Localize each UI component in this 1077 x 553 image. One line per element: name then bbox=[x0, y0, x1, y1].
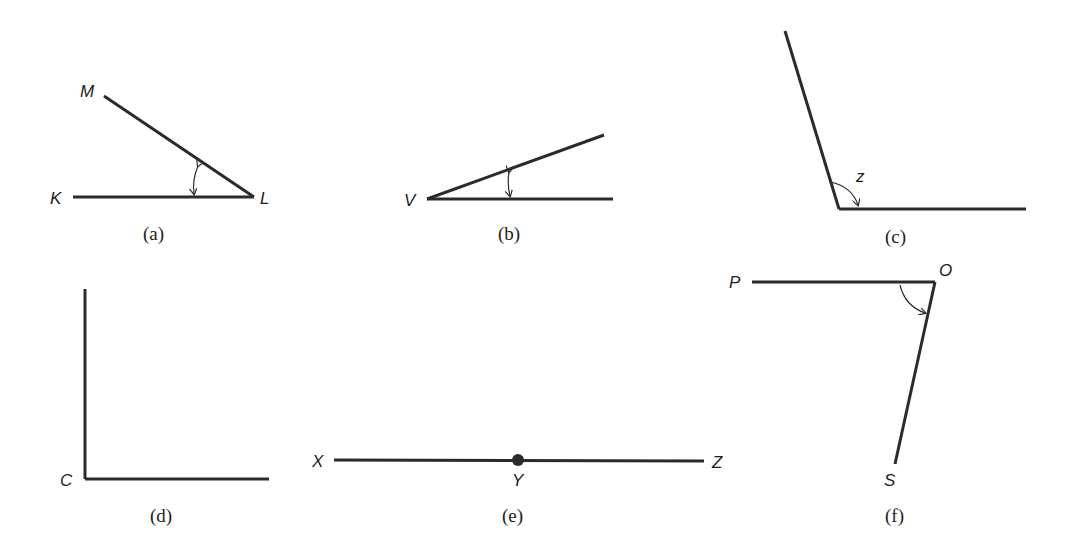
point-label-x: X bbox=[311, 452, 324, 471]
angle-diagrams: M K L (a) V (b) z (c) C (d) X Y Z (e) bbox=[0, 0, 1077, 553]
figure-e-straight-angle-xyz: X Y Z (e) bbox=[311, 452, 723, 527]
point-label-k: K bbox=[50, 189, 62, 208]
point-label-m: M bbox=[80, 82, 95, 101]
figure-d-right-angle-c: C (d) bbox=[60, 289, 269, 527]
point-label-p: P bbox=[729, 273, 741, 292]
point-label-v: V bbox=[404, 191, 417, 210]
ray-c-inclined bbox=[785, 31, 839, 209]
angle-arc-icon bbox=[508, 172, 510, 196]
figure-c-angle-z: z (c) bbox=[785, 31, 1026, 248]
caption-a: (a) bbox=[143, 223, 164, 245]
figure-a-angle-mlk: M K L (a) bbox=[50, 82, 269, 245]
ray-os bbox=[895, 282, 935, 464]
caption-d: (d) bbox=[150, 505, 172, 527]
caption-c: (c) bbox=[885, 226, 906, 248]
angle-label-z: z bbox=[855, 167, 865, 186]
caption-e: (e) bbox=[502, 505, 523, 527]
ray-lm bbox=[104, 96, 254, 197]
ray-v-inclined bbox=[427, 135, 604, 199]
figure-f-angle-pos: P O S (f) bbox=[729, 261, 952, 527]
point-label-o: O bbox=[939, 261, 952, 280]
point-label-l: L bbox=[260, 189, 269, 208]
point-label-s: S bbox=[884, 471, 896, 490]
caption-b: (b) bbox=[498, 223, 520, 245]
point-label-z: Z bbox=[711, 453, 723, 472]
point-label-c: C bbox=[60, 471, 73, 490]
figure-b-angle-v: V (b) bbox=[404, 135, 613, 245]
point-y-dot-icon bbox=[512, 454, 524, 466]
angle-arc-icon bbox=[194, 166, 199, 194]
caption-f: (f) bbox=[885, 505, 904, 527]
angle-arc-icon bbox=[900, 285, 925, 313]
point-label-y: Y bbox=[512, 471, 525, 490]
